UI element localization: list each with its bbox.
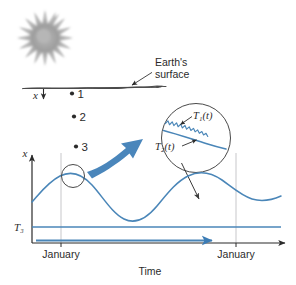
depth-point-2: 2 bbox=[72, 111, 86, 123]
depth-point-1: 1 bbox=[70, 88, 84, 100]
t3-label: T₃ bbox=[14, 221, 24, 233]
x-axis-label: Time bbox=[139, 265, 162, 277]
depth-points-group: 1 2 3 bbox=[70, 88, 88, 153]
magnifier-inset: T₁(t) T₂(t) bbox=[155, 104, 231, 173]
time-series-chart: x T₃ January January Time bbox=[14, 147, 285, 277]
depth-point-1-label: 1 bbox=[78, 88, 84, 100]
y-axis-label: x bbox=[22, 147, 28, 159]
depth-point-3: 3 bbox=[74, 141, 88, 153]
depth-point-2-label: 2 bbox=[80, 111, 86, 123]
depth-axis-label: x bbox=[32, 89, 38, 101]
earth-surface-label-line2: surface bbox=[155, 68, 190, 80]
earth-surface-group: Earth's surface bbox=[23, 56, 190, 89]
surface-leader-line bbox=[132, 72, 152, 85]
depth-axis-group: x bbox=[32, 89, 44, 101]
inset-t2-label: T₂(t) bbox=[155, 141, 175, 153]
inset-t1-label: T₁(t) bbox=[193, 110, 213, 122]
earth-surface-label-line1: Earth's bbox=[155, 56, 187, 68]
sun-icon bbox=[17, 10, 73, 66]
depth-point-3-label: 3 bbox=[82, 141, 88, 153]
xtick-label-january-1: January bbox=[42, 248, 80, 260]
ground-temperature-diagram: Earth's surface x 1 2 3 T₁(t) T₂( bbox=[0, 0, 296, 285]
xtick-label-january-2: January bbox=[217, 248, 255, 260]
zoom-callout-arrow bbox=[87, 139, 143, 179]
annual-temperature-curve bbox=[32, 173, 281, 221]
